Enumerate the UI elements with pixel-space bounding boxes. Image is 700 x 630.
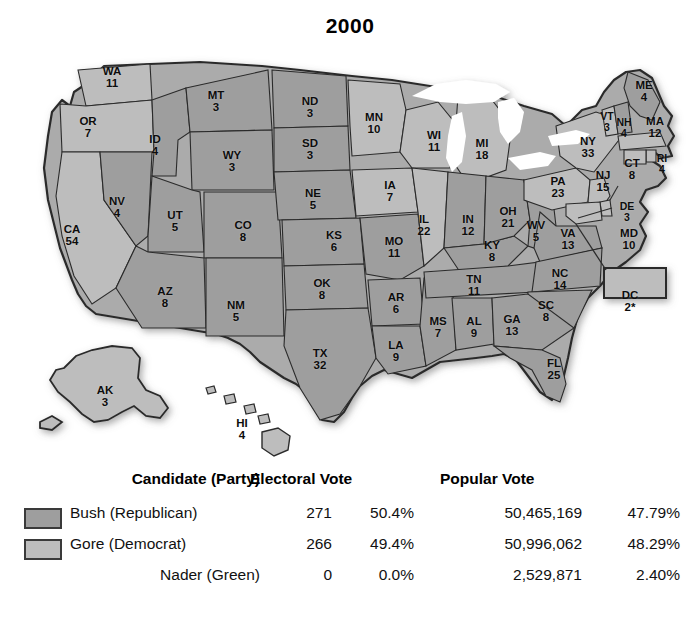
state-CO xyxy=(204,192,282,258)
legend-header-electoral: Electoral Vote xyxy=(250,470,400,488)
legend-popular-pct: 47.79% xyxy=(592,504,680,522)
legend-electoral-votes: 271 xyxy=(262,504,332,522)
legend-swatch-gore xyxy=(24,539,62,560)
hi-island-1 xyxy=(206,386,216,394)
legend-popular-pct: 2.40% xyxy=(592,566,680,584)
legend-electoral-votes: 266 xyxy=(262,535,332,553)
legend-swatch-bush xyxy=(24,508,62,529)
state-KS xyxy=(282,218,364,266)
state-AK-group xyxy=(40,346,168,430)
state-SD xyxy=(274,126,350,172)
state-NM xyxy=(206,258,284,336)
us-map-svg xyxy=(0,40,700,470)
legend-electoral-pct: 49.4% xyxy=(340,535,414,553)
legend-row: Gore (Democrat)26649.4%50,996,06248.29% xyxy=(0,535,700,565)
state-TX xyxy=(284,308,376,420)
legend-electoral-pct: 50.4% xyxy=(340,504,414,522)
state-AK xyxy=(40,346,168,430)
state-AL xyxy=(452,298,494,350)
page-title: 2000 xyxy=(0,14,700,38)
hi-island-4 xyxy=(258,414,270,424)
legend-header-row: Candidate (Party) Electoral Vote Popular… xyxy=(0,470,700,500)
state-OK xyxy=(284,264,368,310)
hi-island-3 xyxy=(244,404,256,414)
state-WA xyxy=(78,64,152,106)
state-ND xyxy=(272,70,348,128)
legend-candidate-name: Nader (Green) xyxy=(24,566,260,584)
hi-island-big xyxy=(262,428,290,456)
results-legend: Candidate (Party) Electoral Vote Popular… xyxy=(0,470,700,630)
state-CT xyxy=(624,150,646,164)
state-MO xyxy=(360,214,424,280)
state-WY xyxy=(190,130,274,190)
legend-header-popular: Popular Vote xyxy=(440,470,620,488)
electoral-map: WA11OR7CA54NV4ID4MT3WY3UT5CO8AZ8NM5ND3SD… xyxy=(0,40,700,470)
legend-row: Bush (Republican)27150.4%50,465,16947.79… xyxy=(0,504,700,534)
legend-header-candidate: Candidate (Party) xyxy=(24,470,260,488)
state-IA xyxy=(352,168,418,216)
dc-callout-box xyxy=(604,268,666,298)
legend-popular-votes: 50,465,169 xyxy=(440,504,582,522)
state-MN xyxy=(348,80,406,156)
legend-candidate-name: Bush (Republican) xyxy=(70,504,260,522)
hi-island-2 xyxy=(224,394,236,404)
legend-electoral-pct: 0.0% xyxy=(340,566,414,584)
legend-row: Nader (Green)00.0%2,529,8712.40% xyxy=(0,566,700,596)
state-RI xyxy=(646,150,656,162)
legend-popular-pct: 48.29% xyxy=(592,535,680,553)
legend-popular-votes: 2,529,871 xyxy=(440,566,582,584)
state-IN xyxy=(444,172,486,248)
legend-popular-votes: 50,996,062 xyxy=(440,535,582,553)
state-OR xyxy=(60,100,154,152)
state-HI-group xyxy=(206,386,290,456)
legend-candidate-name: Gore (Democrat) xyxy=(70,535,260,553)
state-NE xyxy=(274,170,356,220)
state-AR xyxy=(368,278,424,326)
legend-electoral-votes: 0 xyxy=(262,566,332,584)
